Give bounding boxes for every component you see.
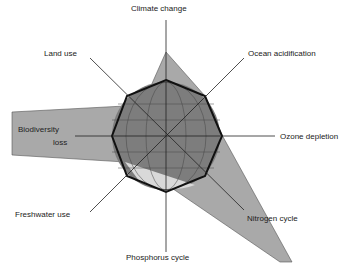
label-biodiversity-loss: loss xyxy=(53,138,67,147)
label-freshwater-use: Freshwater use xyxy=(15,210,70,219)
label-land-use: Land use xyxy=(44,49,77,58)
biodiversity-wedge xyxy=(12,106,125,162)
label-climate-change: Climate change xyxy=(131,4,187,13)
label-nitrogen-cycle: Nitrogen cycle xyxy=(247,214,298,223)
label-biodiversity: Biodiversity xyxy=(18,125,59,134)
label-ozone-depletion: Ozone depletion xyxy=(280,132,338,141)
label-ocean-acidification: Ocean acidification xyxy=(248,49,316,58)
label-phosphorus-cycle: Phosphorus cycle xyxy=(126,253,189,262)
planetary-boundaries-diagram: Climate change Ocean acidification Ozone… xyxy=(0,0,363,270)
